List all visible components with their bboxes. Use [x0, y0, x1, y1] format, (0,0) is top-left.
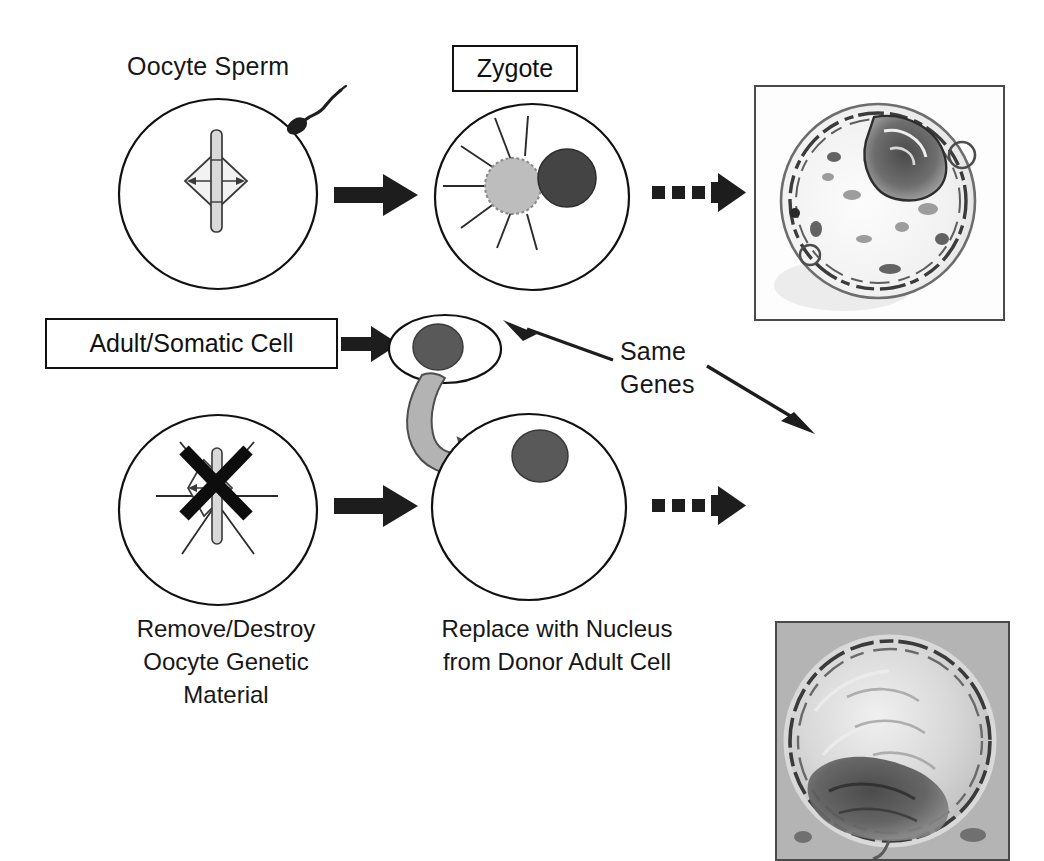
caption-left-line3: Material: [76, 678, 376, 711]
zygote-cell: [425, 98, 640, 298]
caption-left-line2: Oocyte Genetic: [76, 645, 376, 678]
maternal-pronucleus: [485, 158, 541, 214]
zygote-label: Zygote: [477, 54, 553, 83]
arrow-development-bottom: [652, 485, 748, 527]
same-genes-label-line1: Same: [620, 337, 686, 366]
arrow-same-genes-to-somatic: [497, 318, 617, 366]
somatic-cell-nucleus: [413, 324, 463, 370]
paternal-pronucleus: [538, 149, 596, 207]
caption-left: Remove/Destroy Oocyte Genetic Material: [76, 612, 376, 711]
arrow-fertilization: [334, 172, 420, 218]
adult-somatic-cell-label: Adult/Somatic Cell: [89, 329, 293, 358]
sperm-icon: [282, 78, 348, 144]
caption-left-line1: Remove/Destroy: [76, 612, 376, 645]
arrow-enucleated-to-reconstructed: [334, 483, 420, 529]
caption-right: Replace with Nucleus from Donor Adult Ce…: [392, 612, 722, 678]
reconstructed-oocyte: [422, 408, 637, 608]
caption-right-line1: Replace with Nucleus: [392, 612, 722, 645]
arrow-same-genes-to-clone: [705, 364, 821, 440]
oocyte-sperm-label: Oocyte Sperm: [127, 52, 289, 81]
micrograph-cloned-blastocyst: [775, 621, 1010, 861]
zygote-label-box: Zygote: [452, 45, 578, 92]
caption-right-line2: from Donor Adult Cell: [392, 645, 722, 678]
same-genes-label-line2: Genes: [620, 370, 695, 399]
donor-nucleus: [512, 430, 568, 482]
oocyte-cell-enucleated: [108, 408, 328, 613]
arrow-development-top: [652, 172, 748, 214]
micrograph-fertilized-blastocyst: [754, 85, 1005, 321]
adult-somatic-cell-box: Adult/Somatic Cell: [45, 318, 338, 369]
